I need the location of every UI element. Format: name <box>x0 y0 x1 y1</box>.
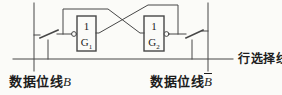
gate-g1-label: G1 <box>77 37 96 48</box>
right-switch-blade <box>186 30 203 38</box>
left-bit-line-signal: B <box>63 74 71 89</box>
row-select-label: 行选择线 <box>238 53 282 65</box>
right-bit-line-signal: B <box>204 74 212 89</box>
left-switch-blade <box>40 30 58 38</box>
g2-output-bubble <box>164 32 169 37</box>
gate-g1-function-symbol: 1 <box>77 21 96 32</box>
gate-g1-letter: G <box>81 36 89 48</box>
gate-g2-subscript: 2 <box>156 43 160 51</box>
g1-output-bubble <box>72 32 77 37</box>
gate-g2-label: G2 <box>144 37 164 48</box>
gate-g2-function-symbol: 1 <box>144 21 164 32</box>
left-bit-line-label: 数据位线B <box>9 75 71 88</box>
gate-g1-subscript: 1 <box>89 43 93 51</box>
right-bit-line-label: 数据位线B <box>150 75 212 88</box>
circuit-figure: 1 G1 1 G2 数据位线B 数据位线B 行选择线 <box>0 0 282 95</box>
left-bit-line-label-text: 数据位线 <box>9 74 63 89</box>
right-bit-line-label-text: 数据位线 <box>150 74 204 89</box>
